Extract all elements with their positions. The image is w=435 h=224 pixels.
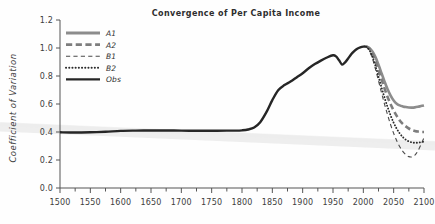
chart-figure: Convergence of Per Capita Income Coeffic…: [0, 0, 435, 224]
x-tick-label: 1800: [231, 198, 252, 207]
chart-background: [0, 0, 435, 224]
chart-title: Convergence of Per Capita Income: [152, 9, 321, 18]
y-axis-label: Coefficient of Variation: [8, 53, 18, 162]
x-tick-label: 1550: [80, 198, 101, 207]
x-tick-label: 1700: [171, 198, 192, 207]
x-tick-label: 1500: [49, 198, 70, 207]
x-tick-label: 2050: [383, 198, 404, 207]
x-tick-label: 1950: [322, 198, 343, 207]
y-tick-label: 0.4: [40, 128, 53, 137]
x-tick-label: 1600: [110, 198, 131, 207]
y-tick-label: 0.6: [40, 100, 53, 109]
y-tick-label: 1.2: [40, 16, 53, 25]
y-tick-label: 0.2: [40, 156, 53, 165]
y-tick-label: 1.0: [40, 44, 53, 53]
y-tick-label: 0.8: [40, 72, 53, 81]
x-tick-label: 2100: [413, 198, 434, 207]
legend-label-a1: A1: [105, 29, 116, 38]
y-tick-label: 0.0: [40, 184, 53, 193]
x-tick-label: 1850: [262, 198, 283, 207]
x-tick-label: 1650: [140, 198, 161, 207]
x-tick-label: 1900: [292, 198, 313, 207]
legend-label-a2: A2: [105, 41, 116, 50]
legend-label-b1: B1: [106, 52, 116, 61]
x-tick-label: 1750: [201, 198, 222, 207]
legend-label-obs: Obs: [106, 75, 121, 84]
legend-label-b2: B2: [106, 64, 116, 73]
chart-canvas: Convergence of Per Capita Income Coeffic…: [0, 0, 435, 224]
x-tick-label: 2000: [353, 198, 374, 207]
